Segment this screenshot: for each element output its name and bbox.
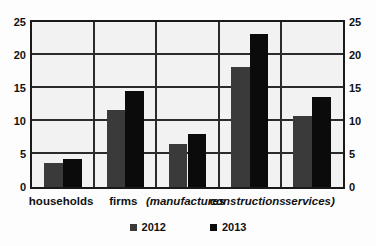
bar-manufactures-2013 <box>188 134 207 187</box>
bar-households-2012 <box>44 163 63 187</box>
legend-entry-2013[interactable]: 2013 <box>210 222 246 233</box>
category-separator-2 <box>155 22 157 187</box>
right-y-tick-0: 0 <box>349 182 371 193</box>
left-y-tick-10: 10 <box>4 116 26 127</box>
bar-services-2013 <box>312 97 331 187</box>
bar-constructions-2012 <box>231 67 250 187</box>
left-y-axis: 2520151050 <box>2 20 26 189</box>
left-y-tick-20: 20 <box>4 50 26 61</box>
bar-constructions-2013 <box>250 34 269 187</box>
category-separator-4 <box>280 22 282 187</box>
category-label-constructions: constructions <box>210 194 286 208</box>
left-y-tick-5: 5 <box>4 149 26 160</box>
gridline-y-15 <box>32 86 343 88</box>
bar-households-2013 <box>63 159 82 187</box>
left-y-tick-0: 0 <box>4 182 26 193</box>
plot-area <box>30 20 345 189</box>
category-separator-1 <box>93 22 95 187</box>
right-y-tick-25: 25 <box>349 17 371 28</box>
chart-legend: 20122013 <box>0 219 376 235</box>
bar-firms-2013 <box>125 91 144 187</box>
right-y-tick-5: 5 <box>349 149 371 160</box>
category-label-services: services) <box>285 194 335 208</box>
legend-label-2013: 2013 <box>222 222 246 233</box>
bar-chart: 2520151050 2520151050 householdsfirms(ma… <box>0 0 376 246</box>
legend-entry-2012[interactable]: 2012 <box>130 222 166 233</box>
right-y-axis: 2520151050 <box>349 20 373 189</box>
category-axis-labels: householdsfirms(manufacturesconstruction… <box>30 194 345 212</box>
category-label-households: households <box>29 194 94 208</box>
right-y-tick-20: 20 <box>349 50 371 61</box>
left-y-tick-25: 25 <box>4 17 26 28</box>
legend-label-2012: 2012 <box>142 222 166 233</box>
bar-services-2012 <box>293 116 312 187</box>
bar-manufactures-2012 <box>169 144 188 187</box>
left-y-tick-15: 15 <box>4 83 26 94</box>
category-label-firms: firms <box>109 194 137 208</box>
bar-firms-2012 <box>107 110 126 187</box>
right-y-tick-10: 10 <box>349 116 371 127</box>
gridline-y-20 <box>32 53 343 55</box>
legend-swatch-icon-2013 <box>210 224 217 231</box>
legend-swatch-icon-2012 <box>130 224 137 231</box>
category-separator-3 <box>218 22 220 187</box>
right-y-tick-15: 15 <box>349 83 371 94</box>
